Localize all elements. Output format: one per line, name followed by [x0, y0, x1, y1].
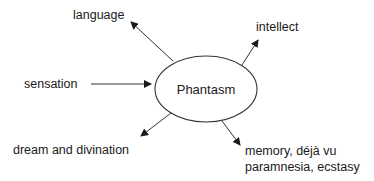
center-label: Phantasm	[177, 82, 236, 97]
center-node: Phantasm	[155, 56, 257, 122]
phantasm-diagram: Phantasm language intellect sensation dr…	[0, 0, 374, 181]
label-sensation: sensation	[24, 77, 78, 91]
node-intellect: intellect	[242, 20, 299, 65]
arrow-to-dream	[141, 113, 171, 136]
arrow-to-memory	[222, 121, 240, 145]
label-memory-line2: paramnesia, ecstasy	[245, 160, 360, 174]
node-language: language	[73, 8, 173, 61]
label-language: language	[73, 8, 124, 22]
arrow-to-intellect	[242, 40, 258, 65]
label-memory-line1: memory, déjà vu	[245, 144, 337, 158]
label-dream: dream and divination	[13, 143, 129, 157]
arrow-to-language	[131, 22, 173, 61]
node-memory: memory, déjà vu paramnesia, ecstasy	[222, 121, 360, 174]
node-sensation: sensation	[24, 77, 151, 91]
node-dream: dream and divination	[13, 113, 171, 157]
label-intellect: intellect	[256, 20, 299, 34]
